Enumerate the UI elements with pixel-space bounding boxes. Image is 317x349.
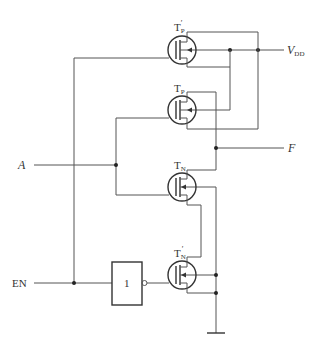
transistor-tn xyxy=(168,170,196,205)
input-a-label: A xyxy=(17,158,26,172)
junction-dot xyxy=(214,273,218,277)
vdd-label: VDD xyxy=(287,43,304,58)
junction-dot xyxy=(114,163,118,167)
vdd-net xyxy=(187,32,284,129)
transistor-tp-prime xyxy=(168,32,196,67)
circuit-diagram: A EN F VDD TP′ TP TN TN′ 1 xyxy=(0,0,317,349)
junction-dot xyxy=(214,291,218,295)
a-net xyxy=(34,118,169,195)
output-f-label: F xyxy=(287,141,296,155)
not-gate-label: 1 xyxy=(124,277,130,289)
junction-dot xyxy=(214,146,218,150)
transistor-tp xyxy=(168,92,196,129)
en-net xyxy=(34,58,169,285)
junction-dot xyxy=(72,281,76,285)
f-net xyxy=(187,92,284,170)
tp-prime-label: TP′ xyxy=(174,19,185,35)
tp-label: TP xyxy=(174,82,185,96)
transistor-tn-prime xyxy=(168,257,196,293)
tn-label: TN xyxy=(174,159,186,173)
not-gate xyxy=(112,262,169,305)
input-en-label: EN xyxy=(12,277,27,289)
inversion-bubble xyxy=(142,281,147,286)
ground-net xyxy=(187,187,225,333)
tn-prime-label: TN′ xyxy=(174,245,186,261)
